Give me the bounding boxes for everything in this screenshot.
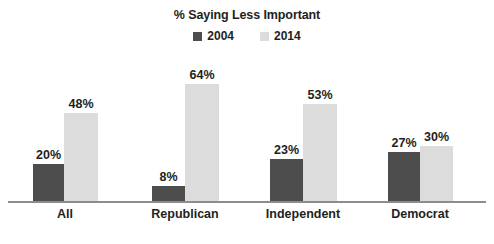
bar bbox=[303, 104, 337, 201]
bar-value-label: 53% bbox=[297, 88, 343, 102]
bar bbox=[270, 159, 303, 201]
bar bbox=[420, 146, 453, 201]
bar-chart: % Saying Less Important 2004 2014 20%48%… bbox=[0, 0, 494, 244]
bar bbox=[64, 113, 98, 201]
x-axis-category-label: Democrat bbox=[360, 207, 480, 221]
bar bbox=[185, 84, 219, 201]
bar bbox=[33, 164, 64, 201]
bar-value-label: 64% bbox=[179, 68, 225, 82]
bar-value-label: 48% bbox=[58, 97, 104, 111]
x-axis-category-label: All bbox=[5, 207, 125, 221]
bar bbox=[152, 186, 185, 201]
plot-area: 20%48%All8%64%Republican23%53%Independen… bbox=[0, 0, 494, 244]
x-axis-category-label: Independent bbox=[243, 207, 363, 221]
x-axis-line bbox=[8, 201, 486, 203]
bar bbox=[388, 152, 420, 201]
bar-value-label: 30% bbox=[414, 130, 459, 144]
x-axis-category-label: Republican bbox=[125, 207, 245, 221]
